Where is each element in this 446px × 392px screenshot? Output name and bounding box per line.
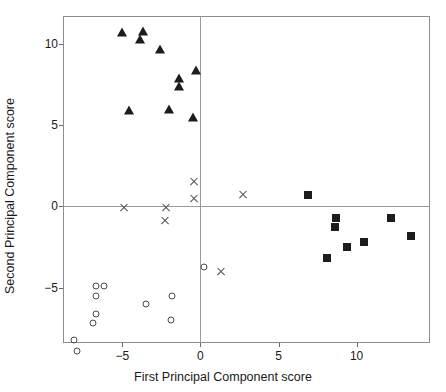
data-point-square xyxy=(407,232,415,240)
data-point-square xyxy=(323,254,331,262)
y-tick xyxy=(59,288,63,289)
data-point-circle xyxy=(92,283,99,290)
x-tick xyxy=(200,343,201,347)
x-axis-title: First Principal Component score xyxy=(0,370,446,384)
x-tick xyxy=(279,343,280,347)
data-point-cross xyxy=(189,193,199,203)
data-point-triangle xyxy=(174,81,184,90)
data-point-cross xyxy=(119,203,129,213)
data-point-triangle xyxy=(188,112,198,121)
data-point-circle xyxy=(92,292,99,299)
data-point-square xyxy=(304,191,312,199)
data-point-circle xyxy=(92,310,99,317)
data-point-cross xyxy=(189,177,199,187)
data-point-circle xyxy=(169,292,176,299)
data-point-triangle xyxy=(117,28,127,37)
data-point-square xyxy=(332,214,340,222)
data-point-circle xyxy=(70,336,77,343)
x-tick xyxy=(357,343,358,347)
scatter-plot-figure: −50510−50510 First Principal Component s… xyxy=(0,0,446,392)
x-tick-label: 10 xyxy=(350,349,363,363)
data-point-square xyxy=(360,238,368,246)
x-tick xyxy=(122,343,123,347)
data-point-square xyxy=(387,214,395,222)
data-point-circle xyxy=(100,283,107,290)
data-point-cross xyxy=(160,216,170,226)
y-tick xyxy=(59,206,63,207)
y-tick xyxy=(59,44,63,45)
data-point-cross xyxy=(216,266,226,276)
data-point-circle xyxy=(89,320,96,327)
x-tick-label: 0 xyxy=(197,349,204,363)
data-point-triangle xyxy=(124,106,134,115)
data-point-circle xyxy=(200,263,207,270)
y-tick xyxy=(59,125,63,126)
data-point-triangle xyxy=(191,65,201,74)
y-tick-label: 5 xyxy=(51,118,58,132)
data-point-triangle xyxy=(155,44,165,53)
data-point-triangle xyxy=(135,34,145,43)
data-point-square xyxy=(331,223,339,231)
x-tick-label: 5 xyxy=(275,349,282,363)
data-point-cross xyxy=(238,190,248,200)
data-point-triangle xyxy=(164,104,174,113)
data-point-cross xyxy=(161,203,171,213)
data-point-square xyxy=(343,243,351,251)
plot-area xyxy=(63,16,430,343)
data-point-circle xyxy=(142,300,149,307)
data-point-circle xyxy=(74,348,81,355)
y-tick-label: 10 xyxy=(45,37,58,51)
data-point-circle xyxy=(167,317,174,324)
y-tick-label: −5 xyxy=(44,281,58,295)
y-tick-label: 0 xyxy=(51,199,58,213)
x-tick-label: −5 xyxy=(116,349,130,363)
y-axis-title: Second Principal Component score xyxy=(0,0,20,392)
